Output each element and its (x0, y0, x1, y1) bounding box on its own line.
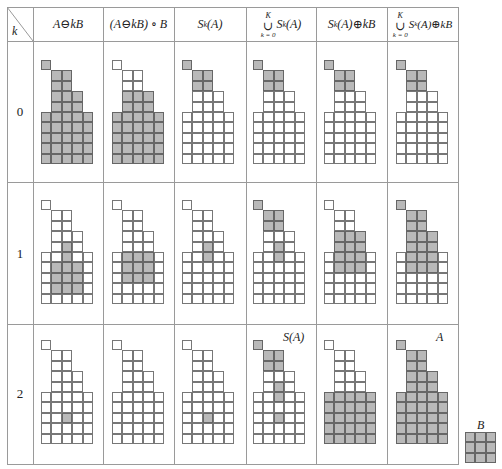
grid-cell (72, 154, 82, 164)
grid-cell (324, 283, 334, 293)
grid-cell (295, 154, 305, 164)
grid-cell (154, 294, 164, 304)
grid-cell (192, 210, 202, 220)
grid-cell (51, 102, 61, 112)
grid-cell (224, 402, 234, 412)
header-text: kB (441, 18, 453, 30)
grid-cell (182, 154, 192, 164)
grid-cell (417, 294, 427, 304)
grid-cell (72, 273, 82, 283)
grid-cell (133, 434, 143, 444)
grid-cell (133, 70, 143, 80)
grid-cell (406, 102, 416, 112)
grid-cell (274, 143, 284, 153)
grid-cell (263, 262, 273, 272)
grid-cell (334, 91, 344, 101)
grid-cell (355, 423, 365, 433)
grid-cell (465, 432, 475, 442)
header-text: (A) (337, 17, 352, 32)
grid-cell (345, 70, 355, 80)
grid-cell (263, 154, 273, 164)
grid-cell (192, 122, 202, 132)
grid-cell (213, 413, 223, 423)
grid-cell (143, 242, 153, 252)
grid-cell (406, 154, 416, 164)
grid-cell (406, 133, 416, 143)
grid-cell (112, 423, 122, 433)
grid-cell (406, 423, 416, 433)
grid-cell (154, 402, 164, 412)
grid-cell (62, 294, 72, 304)
grid-cell (203, 382, 213, 392)
grid-cell (396, 252, 406, 262)
grid-cell (154, 283, 164, 293)
grid-cell (355, 273, 365, 283)
grid-cell (224, 283, 234, 293)
grid-cell (203, 242, 213, 252)
grid-cell (274, 361, 284, 371)
grid-cell (366, 434, 376, 444)
grid-cell (355, 143, 365, 153)
grid-cell (274, 91, 284, 101)
grid-cell (406, 413, 416, 423)
grid-cell (203, 133, 213, 143)
grid-cell (224, 252, 234, 262)
grid-cell (406, 112, 416, 122)
grid-cell (253, 340, 263, 350)
grid-cell (133, 133, 143, 143)
grid-cell (366, 413, 376, 423)
grid-cell (133, 122, 143, 132)
grid-cell (72, 262, 82, 272)
grid-cell (192, 392, 202, 402)
grid-cell (253, 283, 263, 293)
grid-cell (224, 423, 234, 433)
grid-cell (355, 122, 365, 132)
grid-cell (72, 122, 82, 132)
grid-cell (486, 432, 496, 442)
grid-cell (263, 371, 273, 381)
grid-cell (295, 112, 305, 122)
grid-cell (62, 154, 72, 164)
grid-cell (213, 262, 223, 272)
grid-cell (438, 423, 448, 433)
grid-cell (72, 382, 82, 392)
erosion-operator: ⊖ (121, 17, 131, 32)
col-divider-5 (387, 7, 388, 465)
grid-cell (192, 231, 202, 241)
grid-cell (62, 102, 72, 112)
col-divider-1 (103, 7, 104, 465)
grid-cell (143, 91, 153, 101)
grid-cell (417, 133, 427, 143)
grid-cell (334, 133, 344, 143)
grid-cell (182, 413, 192, 423)
grid-cell (396, 413, 406, 423)
grid-cell (334, 143, 344, 153)
grid-cell (427, 252, 437, 262)
grid-cell (334, 283, 344, 293)
grid-cell (62, 210, 72, 220)
grid-cell (203, 423, 213, 433)
grid-cell (417, 242, 427, 252)
grid-cell (324, 392, 334, 402)
grid-cell (396, 340, 406, 350)
grid-cell (51, 122, 61, 132)
grid-cell (203, 70, 213, 80)
grid-cell (72, 102, 82, 112)
grid-cell (324, 60, 334, 70)
grid-cell (417, 273, 427, 283)
grid-cell (213, 434, 223, 444)
grid-cell (203, 273, 213, 283)
grid-cell (355, 413, 365, 423)
grid-cell (263, 382, 273, 392)
grid-cell (263, 242, 273, 252)
grid-cell (133, 423, 143, 433)
grid-cell (213, 102, 223, 112)
grid-cell (213, 252, 223, 262)
grid-cell (334, 231, 344, 241)
grid-cell (41, 122, 51, 132)
grid-cell (182, 200, 192, 210)
grid-cell (324, 340, 334, 350)
grid-cell (263, 143, 273, 153)
grid-cell (417, 143, 427, 153)
grid-cell (486, 453, 496, 463)
